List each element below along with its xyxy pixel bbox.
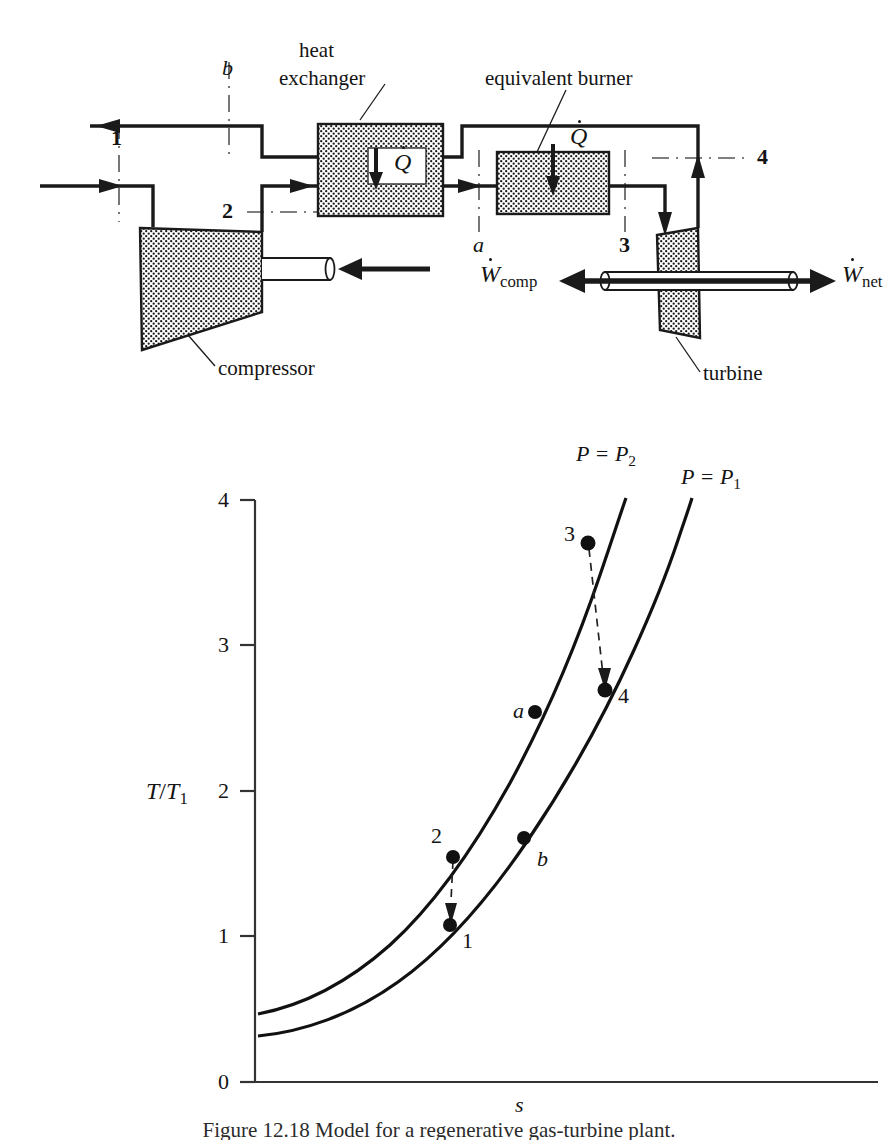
q-dot-glyph-hx: Q: [394, 150, 411, 174]
chart-point-label-b: b: [537, 848, 548, 870]
curve-p1: [258, 498, 692, 1036]
schematic-station-3: 3: [619, 234, 630, 256]
equivalent-burner-body: [497, 144, 609, 214]
heat-exchanger-label-line1: heat: [299, 40, 334, 61]
curve-label-p1-text: P = P: [681, 464, 733, 489]
y-axis-title-den-subscript: 1: [179, 789, 187, 808]
leader-compressor: [188, 335, 215, 366]
heat-exchanger-body: [318, 124, 443, 216]
process-dashed-arrowheads: [445, 668, 611, 924]
y-axis-title: T/T1: [146, 779, 188, 808]
curve-label-p2: P = P2: [576, 443, 636, 468]
q-dot-glyph-burner: Q: [570, 124, 587, 148]
heat-exchanger-label-line2: exchanger: [279, 68, 365, 89]
work-compressor-subscript: comp: [500, 272, 537, 291]
pipe-exhaust-out: [90, 126, 318, 157]
work-compressor-label: Wcomp: [480, 262, 537, 291]
process-dashed-lines: [450, 549, 604, 920]
figure-caption: Figure 12.18 Model for a regenerative ga…: [0, 1118, 878, 1140]
compressor-body: [140, 228, 262, 350]
turbine-shaft: [559, 269, 836, 293]
w-dot-glyph-net: W: [842, 262, 862, 286]
heat-rate-label-burner: Q: [570, 124, 587, 148]
x-axis-title: s: [515, 1094, 524, 1116]
curve-p2: [258, 498, 626, 1014]
work-net-label: Wnet: [842, 262, 883, 291]
schematic-station-b: b: [222, 57, 233, 79]
state-point-3: [581, 536, 596, 551]
arrow-to-hx: [290, 179, 314, 193]
turbine-label: turbine: [703, 363, 762, 384]
work-net-subscript: net: [862, 272, 883, 291]
y-axis-title-num: T: [146, 778, 159, 804]
heat-rate-label-hx: Q: [394, 150, 411, 174]
y-tick-label-2: 2: [218, 780, 229, 802]
y-axis-ticks: [240, 500, 255, 1082]
compressor-label: compressor: [218, 358, 315, 379]
curve-label-p1-subscript: 1: [733, 475, 741, 492]
compressor-work-arrow: [338, 258, 430, 280]
chart-point-label-4: 4: [618, 685, 629, 707]
state-point-2: [446, 850, 460, 864]
state-point-a: [528, 705, 542, 719]
leader-equivalent-burner: [537, 90, 566, 152]
curve-label-p2-subscript: 2: [628, 452, 636, 469]
schematic-station-4: 4: [757, 146, 768, 168]
chart-point-label-2: 2: [431, 825, 442, 847]
schematic-station-2: 2: [222, 200, 233, 222]
y-tick-label-3: 3: [218, 634, 229, 656]
pipe-air-inlet: [40, 186, 153, 227]
compressor-shaft: [262, 258, 335, 280]
w-dot-glyph-comp: W: [480, 262, 500, 286]
curve-label-p1: P = P1: [681, 466, 741, 491]
equivalent-burner-label: equivalent burner: [485, 68, 633, 89]
leader-turbine: [676, 337, 700, 372]
y-tick-label-1: 1: [218, 925, 229, 947]
y-tick-label-0: 0: [218, 1071, 229, 1093]
schematic-station-a: a: [473, 234, 484, 256]
state-point-markers: [443, 536, 613, 933]
chart-point-label-a: a: [513, 700, 524, 722]
y-tick-label-4: 4: [218, 489, 229, 511]
state-point-4: [598, 683, 613, 698]
schematic-station-1: 1: [111, 127, 122, 149]
state-point-1: [443, 918, 457, 932]
chart-point-label-1: 1: [462, 930, 473, 952]
y-axis-title-den: T: [166, 778, 179, 804]
chart-point-label-3: 3: [564, 523, 575, 545]
curve-label-p2-text: P = P: [576, 441, 628, 466]
state-point-b: [517, 831, 531, 845]
